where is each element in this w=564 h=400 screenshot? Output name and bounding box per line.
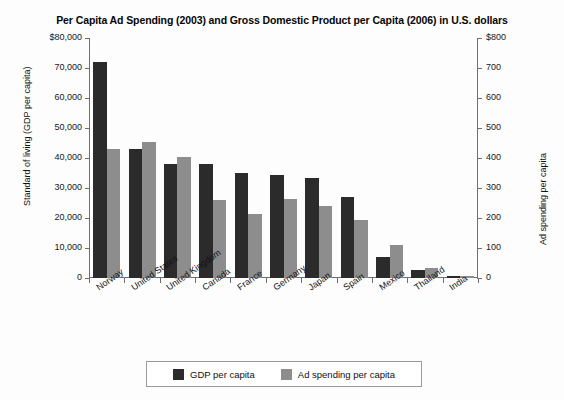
x-tick-mark <box>124 278 125 283</box>
bar-ad <box>354 220 368 279</box>
left-tick-label: 50,000 <box>54 123 82 132</box>
left-tick-label: 20,000 <box>54 213 82 222</box>
right-tick-label: $800 <box>486 33 506 42</box>
right-tick-mark <box>478 38 482 39</box>
right-tick-label: 0 <box>486 273 491 282</box>
bar-gdp <box>270 175 284 279</box>
x-tick-mark <box>160 278 161 283</box>
right-tick-mark <box>478 128 482 129</box>
right-tick-label: 300 <box>486 183 501 192</box>
x-tick-mark <box>337 278 338 283</box>
bar-ad <box>107 149 121 278</box>
right-tick-mark <box>478 68 482 69</box>
left-tick-mark <box>85 38 89 39</box>
left-tick-label: 0 <box>77 273 82 282</box>
x-tick-mark <box>230 278 231 283</box>
right-tick-label: 700 <box>486 63 501 72</box>
bar-gdp <box>376 257 390 278</box>
legend-label-ad: Ad spending per capita <box>298 369 395 380</box>
plot-area: $80,00070,00060,00050,00040,00030,00020,… <box>89 38 478 278</box>
left-tick-mark <box>85 128 89 129</box>
right-tick-label: 200 <box>486 213 501 222</box>
right-axis-title: Ad spending per capita <box>538 153 548 245</box>
legend-label-gdp: GDP per capita <box>190 369 255 380</box>
right-tick-label: 400 <box>486 153 501 162</box>
right-tick-mark <box>478 218 482 219</box>
right-tick-mark <box>478 98 482 99</box>
left-tick-mark <box>85 98 89 99</box>
left-tick-mark <box>85 218 89 219</box>
right-tick-label: 600 <box>486 93 501 102</box>
x-tick-mark <box>407 278 408 283</box>
x-tick-mark <box>266 278 267 283</box>
bar-gdp <box>341 197 355 278</box>
left-axis-line <box>89 38 90 279</box>
bar-gdp <box>93 62 107 278</box>
left-axis-title: Standard of living (GDP per capita) <box>22 67 32 206</box>
x-tick-mark <box>443 278 444 283</box>
right-tick-label: 500 <box>486 123 501 132</box>
x-tick-mark <box>478 278 479 283</box>
left-tick-label: 40,000 <box>54 153 82 162</box>
left-tick-mark <box>85 248 89 249</box>
left-tick-mark <box>85 158 89 159</box>
bar-ad <box>319 206 333 278</box>
chart-legend: GDP per capita Ad spending per capita <box>146 361 422 387</box>
x-tick-mark <box>372 278 373 283</box>
x-tick-mark <box>195 278 196 283</box>
bar-gdp <box>129 149 143 278</box>
bar-ad <box>142 142 156 279</box>
left-tick-label: 30,000 <box>54 183 82 192</box>
x-tick-mark <box>301 278 302 283</box>
legend-swatch-icon-ad <box>281 369 292 380</box>
left-tick-label: 70,000 <box>54 63 82 72</box>
left-tick-mark <box>85 68 89 69</box>
bar-ad <box>248 214 262 278</box>
chart-page: Per Capita Ad Spending (2003) and Gross … <box>0 0 564 400</box>
right-tick-mark <box>478 248 482 249</box>
left-tick-label: $80,000 <box>49 33 82 42</box>
legend-swatch-icon-gdp <box>173 369 184 380</box>
x-tick-mark <box>89 278 90 283</box>
legend-item-gdp: GDP per capita <box>173 369 255 380</box>
bar-gdp <box>305 178 319 279</box>
right-tick-label: 100 <box>486 243 501 252</box>
bar-ad <box>177 157 191 279</box>
page-title: Per Capita Ad Spending (2003) and Gross … <box>0 14 564 26</box>
left-tick-label: 10,000 <box>54 243 82 252</box>
left-tick-mark <box>85 188 89 189</box>
right-tick-mark <box>478 188 482 189</box>
bar-gdp <box>235 173 249 278</box>
right-tick-mark <box>478 158 482 159</box>
legend-item-ad: Ad spending per capita <box>281 369 395 380</box>
left-tick-label: 60,000 <box>54 93 82 102</box>
